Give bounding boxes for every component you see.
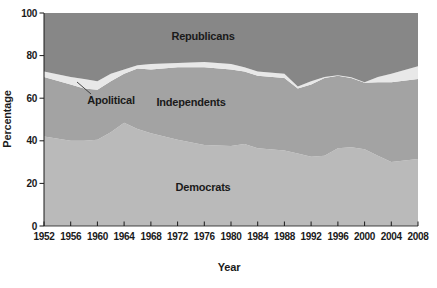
y-tick-label: 80	[26, 50, 37, 61]
republicans-area-label: Republicans	[171, 30, 234, 42]
x-tick-label: 1956	[60, 231, 82, 242]
x-tick-label: 1996	[327, 231, 349, 242]
x-tick-label: 1952	[33, 231, 55, 242]
x-tick-label: 1968	[140, 231, 162, 242]
y-tick-label: 0	[32, 221, 38, 232]
chart-areas	[44, 13, 418, 226]
y-tick-label: 40	[26, 135, 37, 146]
democrats-area-label: Democrats	[175, 181, 230, 193]
x-tick-label: 1992	[301, 231, 323, 242]
x-tick-label: 1964	[114, 231, 136, 242]
party-id-stacked-area-chart: 0204060801001952195619601964196819721976…	[0, 0, 437, 288]
y-axis-title: Percentage	[1, 90, 13, 147]
x-axis-title: Year	[218, 261, 241, 273]
x-tick-label: 1976	[194, 231, 216, 242]
x-tick-label: 1980	[220, 231, 242, 242]
x-tick-label: 1984	[247, 231, 269, 242]
y-tick-label: 100	[21, 8, 38, 19]
x-tick-label: 1972	[167, 231, 189, 242]
x-tick-label: 2008	[407, 231, 429, 242]
x-tick-label: 2004	[381, 231, 403, 242]
x-tick-label: 1960	[87, 231, 109, 242]
y-tick-label: 60	[26, 93, 37, 104]
independents-area-label: Independents	[156, 96, 225, 108]
x-tick-label: 1988	[274, 231, 296, 242]
y-tick-label: 20	[26, 178, 37, 189]
x-tick-label: 2000	[354, 231, 376, 242]
apolitical-area-label: Apolitical	[87, 94, 135, 106]
party-identification-chart-page: 0204060801001952195619601964196819721976…	[0, 0, 437, 288]
